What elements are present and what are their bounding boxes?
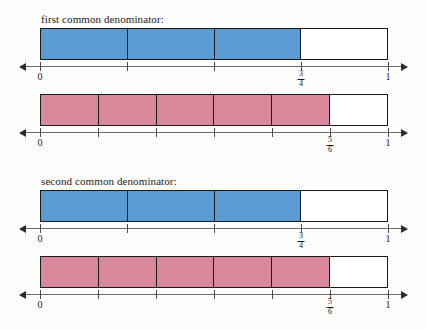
axis-left-arrow-icon (19, 225, 26, 233)
axis-left-arrow-icon (19, 63, 26, 71)
axis-tick-label: 1 (386, 137, 391, 148)
axis-tick (98, 290, 99, 299)
fraction-number-line-figure: first common denominator:03410561second … (0, 0, 427, 329)
pink-bar-row-2 (40, 256, 388, 288)
empty-segment (301, 29, 387, 59)
axis-tick-label: 1 (386, 299, 391, 310)
filled-segment (272, 95, 330, 125)
axis-tick (388, 128, 389, 137)
fraction-denominator: 4 (298, 80, 304, 88)
fraction-denominator: 4 (298, 242, 304, 250)
axis-right-arrow-icon (401, 129, 408, 137)
axis-left-arrow-icon (19, 291, 26, 299)
filled-segment (157, 257, 215, 287)
axis-fraction-label: 56 (326, 298, 333, 316)
fraction-numerator: 3 (298, 70, 304, 78)
fraction-denominator: 6 (327, 146, 333, 154)
axis-tick (388, 62, 389, 71)
filled-segment (128, 29, 215, 59)
axis-right-arrow-icon (401, 291, 408, 299)
section-caption-2: second common denominator: (41, 175, 177, 187)
axis-tick (127, 224, 128, 233)
pink-bar-row-1 (40, 94, 388, 126)
axis-tick (214, 128, 215, 137)
filled-segment (272, 257, 330, 287)
axis-tick-label: 1 (386, 233, 391, 244)
filled-segment (99, 257, 157, 287)
axis-right-arrow-icon (401, 63, 408, 71)
axis-tick (40, 224, 41, 233)
axis-tick-label: 0 (38, 233, 43, 244)
filled-segment (157, 95, 215, 125)
axis-tick (156, 290, 157, 299)
blue-bar-row-1 (40, 28, 388, 60)
axis-tick (272, 290, 273, 299)
axis-tick (40, 62, 41, 71)
axis-tick-label: 0 (38, 299, 43, 310)
axis-right-arrow-icon (401, 225, 408, 233)
axis-tick-label: 0 (38, 137, 43, 148)
section-caption-1: first common denominator: (41, 13, 164, 25)
axis-tick (214, 224, 215, 233)
fraction-numerator: 5 (327, 136, 333, 144)
axis-tick (127, 62, 128, 71)
axis-fraction-label: 56 (326, 136, 333, 154)
axis-tick-label: 0 (38, 71, 43, 82)
axis-tick-label: 1 (386, 71, 391, 82)
filled-segment (128, 191, 215, 221)
fraction-numerator: 3 (298, 232, 304, 240)
axis-tick (272, 128, 273, 137)
filled-segment (215, 29, 302, 59)
axis-tick (98, 128, 99, 137)
filled-segment (41, 29, 128, 59)
empty-segment (330, 95, 387, 125)
empty-segment (330, 257, 387, 287)
axis-tick (388, 224, 389, 233)
axis-tick (214, 290, 215, 299)
axis-fraction-label: 34 (298, 232, 305, 250)
axis-tick (40, 290, 41, 299)
filled-segment (215, 191, 302, 221)
filled-segment (41, 257, 99, 287)
filled-segment (41, 191, 128, 221)
filled-segment (99, 95, 157, 125)
axis-tick (156, 128, 157, 137)
filled-segment (41, 95, 99, 125)
axis-tick (214, 62, 215, 71)
blue-bar-row-2 (40, 190, 388, 222)
fraction-numerator: 5 (327, 298, 333, 306)
empty-segment (301, 191, 387, 221)
filled-segment (214, 95, 272, 125)
fraction-denominator: 6 (327, 308, 333, 316)
filled-segment (214, 257, 272, 287)
axis-left-arrow-icon (19, 129, 26, 137)
axis-fraction-label: 34 (298, 70, 305, 88)
axis-tick (40, 128, 41, 137)
axis-tick (388, 290, 389, 299)
